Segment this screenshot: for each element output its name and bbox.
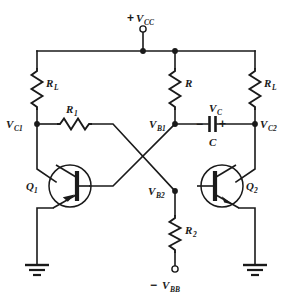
- transistor-q1-collector-lead: [56, 165, 76, 177]
- capacitor-branch: [175, 116, 255, 132]
- vcc-supply-branch: [140, 26, 146, 51]
- label-vb2: V B2: [148, 185, 165, 200]
- resistor-rl-right: [250, 68, 261, 124]
- cap-voltage-subscript: C: [217, 108, 223, 117]
- rl-right-subscript: L: [271, 83, 277, 92]
- label-r-middle: R: [184, 77, 192, 89]
- resistor-r-middle-zigzag: [170, 68, 181, 110]
- cap-polarity-minus: −: [196, 117, 203, 131]
- r1-symbol: R: [65, 103, 73, 115]
- transistor-q2-emitter-arrow: [222, 196, 234, 205]
- vbb-terminal-circle: [172, 266, 178, 272]
- resistor-rl-left-zigzag: [32, 68, 43, 110]
- vb1-subscript: B1: [156, 124, 166, 133]
- label-q1: Q 1: [26, 180, 38, 195]
- label-vc-capacitor-voltage: V C: [209, 102, 223, 117]
- schematic-svg: + V CC R L R R L R 1 R 2 V C1 V C2 V B1: [0, 0, 290, 297]
- vbb-subscript: BB: [169, 285, 180, 294]
- resistor-rl-left: [32, 68, 43, 124]
- resistor-r-middle: [170, 68, 181, 124]
- r1-subscript: 1: [74, 109, 78, 118]
- circuit-diagram-canvas: + V CC R L R R L R 1 R 2 V C1 V C2 V B1: [0, 0, 290, 297]
- resistor-r2-branch: [170, 191, 181, 272]
- label-vbb: − V BB: [150, 278, 180, 294]
- label-r1: R 1: [65, 103, 78, 118]
- junction-dot-vc1: [34, 121, 40, 127]
- r2-subscript: 2: [192, 230, 197, 239]
- transistor-q2: [197, 165, 243, 208]
- transistor-q1: [49, 165, 91, 208]
- q1-symbol: Q: [26, 180, 34, 192]
- junction-dot-r-branch: [172, 48, 178, 54]
- label-q2: Q 2: [246, 180, 258, 195]
- label-rl-left: R L: [45, 77, 59, 92]
- resistor-r2-zigzag: [170, 215, 181, 253]
- label-vcc: + V CC: [127, 11, 155, 27]
- vbb-sign: −: [150, 278, 157, 292]
- label-vc1: V C1: [6, 118, 23, 133]
- junction-dot-vb1: [172, 121, 178, 127]
- label-rl-right: R L: [263, 77, 277, 92]
- q2-symbol: Q: [246, 180, 254, 192]
- vc2-subscript: C2: [268, 124, 277, 133]
- label-r2: R 2: [184, 224, 197, 239]
- rl-left-symbol: R: [45, 77, 53, 89]
- vc1-subscript: C1: [14, 124, 23, 133]
- rl-left-subscript: L: [53, 83, 59, 92]
- junction-dot-vcc: [140, 48, 146, 54]
- resistor-rl-right-zigzag: [250, 68, 261, 110]
- vcc-subscript: CC: [144, 18, 155, 27]
- cap-polarity-plus: +: [219, 117, 226, 131]
- r2-symbol: R: [184, 224, 192, 236]
- rl-right-symbol: R: [263, 77, 271, 89]
- ground-right: [243, 265, 267, 275]
- label-vc2: V C2: [260, 118, 277, 133]
- q2-emitter-to-ground-wire: [239, 208, 255, 264]
- resistor-r1-zigzag: [57, 119, 92, 130]
- q1-subscript: 1: [34, 186, 38, 195]
- q1-emitter-to-ground-wire: [37, 208, 53, 264]
- vcc-sign: +: [127, 11, 134, 25]
- junction-dot-vb2: [172, 188, 178, 194]
- r-middle-symbol: R: [184, 77, 192, 89]
- transistor-q2-collector-lead: [216, 165, 236, 177]
- vb2-subscript: B2: [155, 191, 165, 200]
- junction-dot-vc2: [252, 121, 258, 127]
- r1-to-vb2-crosscouple-wire: [92, 124, 175, 191]
- ground-left: [25, 265, 49, 275]
- cap-symbol: C: [209, 136, 217, 148]
- q2-subscript: 2: [253, 186, 258, 195]
- label-vb1: V B1: [149, 118, 166, 133]
